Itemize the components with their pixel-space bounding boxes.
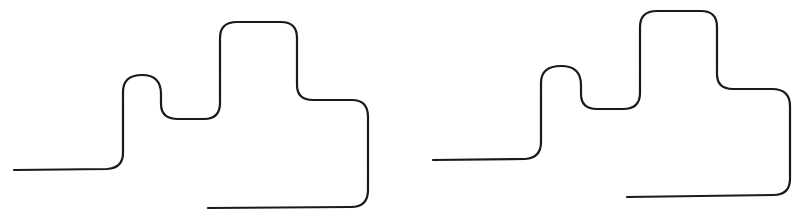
diagram-canvas [0,0,795,219]
left-wire-path [14,22,368,208]
right-wire-path [433,11,790,197]
